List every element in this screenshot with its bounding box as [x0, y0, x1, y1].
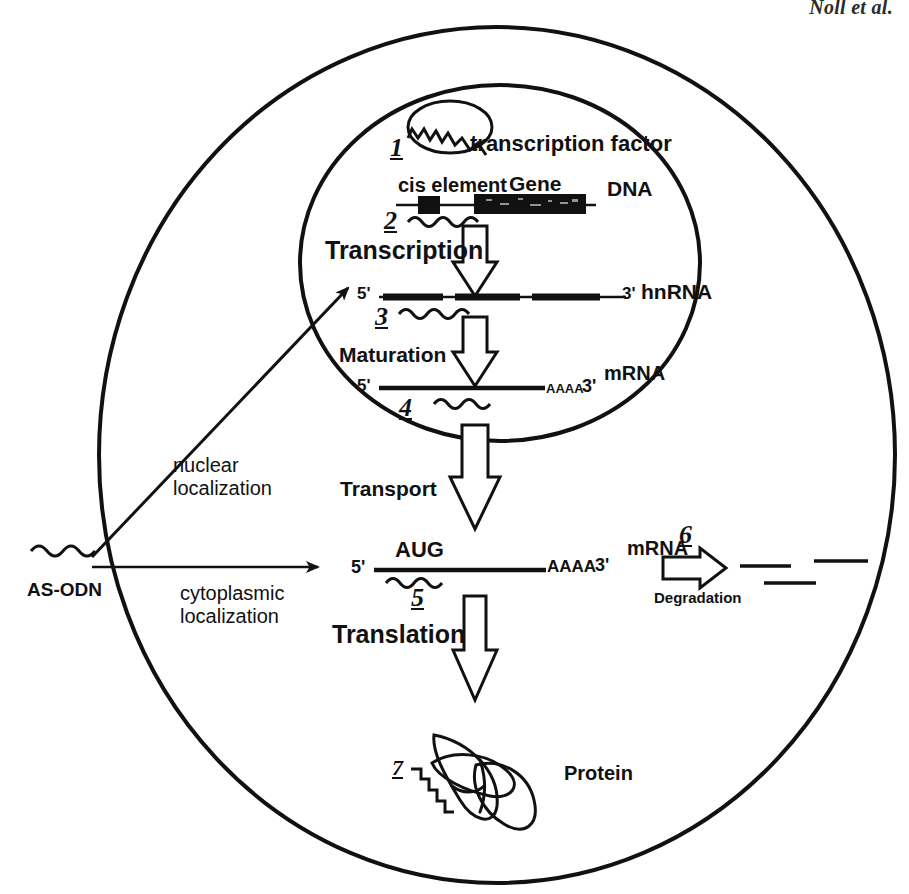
nuclear-localization-label-line2: localization	[173, 478, 272, 500]
nuclear-localization-arrow	[92, 288, 348, 557]
gene-label: Gene	[509, 173, 562, 196]
cytoplasmic-localization-label-line2: localization	[180, 606, 279, 628]
step-number-1: 1	[390, 134, 403, 162]
nuclear-mrna-name-label: mRNA	[604, 363, 665, 385]
transcription-factor-label: transcription factor	[470, 132, 672, 156]
start-codon-label: AUG	[395, 538, 444, 562]
hnrna-five-prime-label: 5'	[357, 285, 371, 303]
nuclear-mrna-polya-label: AAAA	[546, 382, 584, 396]
protein-shape	[432, 735, 535, 829]
step-number-5: 5	[411, 584, 424, 612]
as-odn-squiggle-extracellular-icon	[31, 546, 95, 556]
as-odn-zigzag-protein-icon	[411, 769, 454, 812]
antisense-mechanism-figure: Noll et al.	[0, 0, 909, 894]
nuclear-mrna-five-prime-label: 5'	[357, 377, 371, 395]
step-number-3: 3	[375, 303, 388, 331]
step-number-7: 7	[392, 756, 403, 780]
dna-label: DNA	[607, 178, 653, 201]
as-odn-label: AS-ODN	[27, 580, 102, 601]
degradation-label: Degradation	[654, 590, 742, 606]
cytoplasmic-mrna-name-label: mRNA	[627, 538, 688, 560]
cytoplasmic-mrna-five-prime-label: 5'	[351, 558, 365, 577]
protein-label: Protein	[564, 763, 633, 785]
cis-element-label: cis element	[398, 175, 507, 197]
as-odn-squiggle-hnrna-icon	[399, 310, 469, 319]
cytoplasmic-localization-label-line1: cytoplasmic	[180, 583, 284, 605]
nuclear-localization-label-line1: nuclear	[173, 455, 239, 477]
hnrna-name-label: hnRNA	[641, 281, 712, 304]
cis-element-box	[418, 196, 440, 214]
hnrna-three-prime-label: 3'	[622, 285, 636, 303]
step-number-2: 2	[384, 207, 397, 235]
cytoplasmic-mrna-three-prime-label: 3'	[595, 556, 609, 575]
maturation-label: Maturation	[339, 344, 446, 367]
transcription-label: Transcription	[325, 237, 483, 264]
as-odn-squiggle-nuclear-mrna-icon	[434, 400, 490, 409]
step-number-4: 4	[399, 394, 412, 422]
cytoplasmic-mrna-polya-label: AAAA	[547, 558, 596, 576]
translation-label: Translation	[332, 621, 465, 648]
maturation-arrow	[453, 317, 497, 386]
nuclear-mrna-three-prime-label: 3'	[582, 377, 596, 396]
mrna-fragments	[740, 561, 868, 583]
diagram-canvas	[0, 0, 909, 894]
translation-arrow	[453, 596, 497, 700]
transport-label: Transport	[340, 478, 437, 501]
